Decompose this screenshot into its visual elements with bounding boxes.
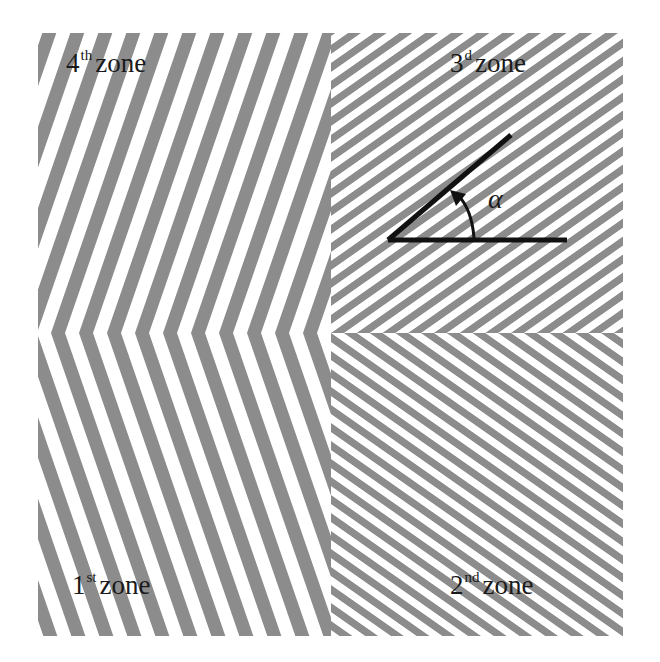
zone-3-number: 3 <box>450 48 464 78</box>
zone-3-area <box>331 33 623 333</box>
zone-2-word: zone <box>483 570 534 600</box>
zone-1-label: 1stzone <box>72 572 150 599</box>
zone-1-suffix: st <box>87 569 97 585</box>
zone-4-area <box>38 33 331 333</box>
zone-4-word: zone <box>95 48 146 78</box>
zone-4-suffix: th <box>81 47 93 63</box>
striped-zone-diagram <box>0 0 660 662</box>
zone-3-suffix: d <box>465 47 473 63</box>
zone-1-number: 1 <box>72 570 86 600</box>
alpha-symbol: α <box>488 185 503 213</box>
zone-2-label: 2ndzone <box>450 572 533 599</box>
zone-3-label: 3dzone <box>450 50 526 77</box>
zone-2-number: 2 <box>450 570 464 600</box>
zone-3-word: zone <box>475 48 526 78</box>
zone-1-word: zone <box>100 570 151 600</box>
zone-2-suffix: nd <box>465 569 480 585</box>
zone-4-number: 4 <box>66 48 80 78</box>
zone-4-label: 4thzone <box>66 50 146 77</box>
